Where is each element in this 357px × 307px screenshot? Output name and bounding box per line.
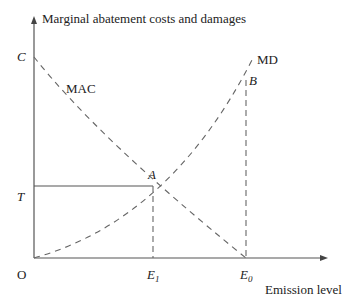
x-axis-label: Emission level: [265, 283, 342, 296]
e0-label: E0: [240, 268, 252, 284]
point-c-label: C: [17, 50, 26, 63]
e0-subscript: 0: [248, 274, 253, 284]
x-axis-arrow-icon: [320, 255, 328, 261]
md-label: MD: [257, 53, 278, 66]
y-axis-label: Marginal abatement costs and damages: [42, 12, 246, 25]
e1-letter: E: [147, 267, 155, 282]
e1-label: E1: [147, 268, 159, 284]
e0-letter: E: [240, 267, 248, 282]
point-t-label: T: [17, 190, 24, 203]
point-a-label: A: [148, 168, 156, 181]
diagram-canvas: [0, 0, 357, 307]
e1-subscript: 1: [155, 274, 160, 284]
mac-label: MAC: [66, 82, 96, 95]
point-b-label: B: [249, 74, 257, 87]
y-axis-arrow-icon: [31, 16, 37, 24]
origin-label: O: [17, 268, 26, 281]
